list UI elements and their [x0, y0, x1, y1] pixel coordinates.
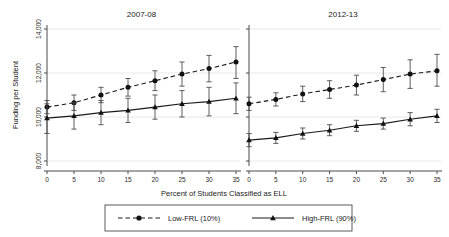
- panel-2: 051015202530352012-13: [246, 10, 442, 183]
- data-point-circle: [180, 72, 185, 77]
- data-point-circle: [234, 60, 239, 65]
- data-point-circle: [354, 83, 359, 88]
- legend-marker-circle: [136, 215, 141, 220]
- panel-1: 8,00010,00012,00014,00005101520253035200…: [35, 10, 241, 183]
- y-axis-title: Funding per Student: [11, 60, 20, 129]
- panel-title-2: 2012-13: [328, 10, 358, 19]
- x-tick-label-25: 25: [380, 176, 388, 183]
- data-point-circle: [273, 97, 278, 102]
- data-point-circle: [435, 68, 440, 73]
- x-tick-label-35: 35: [232, 176, 240, 183]
- series-high-frl: [246, 109, 440, 146]
- y-tick-label-14000: 14,000: [35, 19, 42, 39]
- x-tick-label-10: 10: [299, 176, 307, 183]
- data-point-circle: [153, 78, 158, 83]
- x-tick-label-10: 10: [97, 176, 105, 183]
- x-tick-label-35: 35: [433, 176, 441, 183]
- x-axis-title: Percent of Students Classified as ELL: [161, 189, 287, 198]
- x-tick-label-20: 20: [151, 176, 159, 183]
- y-tick-label-8000: 8,000: [35, 152, 42, 169]
- x-tick-label-30: 30: [205, 176, 213, 183]
- series-high-frl: [44, 83, 239, 134]
- data-point-circle: [247, 101, 252, 106]
- y-tick-label-10000: 10,000: [35, 107, 42, 127]
- legend-label-high-frl: High-FRL (90%): [302, 214, 356, 223]
- x-tick-label-5: 5: [72, 176, 76, 183]
- x-tick-label-15: 15: [124, 176, 132, 183]
- series-low-frl: [246, 54, 439, 110]
- data-point-circle: [207, 66, 212, 71]
- x-tick-label-30: 30: [407, 176, 415, 183]
- data-point-circle: [408, 72, 413, 77]
- x-tick-label-20: 20: [353, 176, 361, 183]
- data-point-circle: [126, 85, 131, 90]
- x-tick-label-15: 15: [326, 176, 334, 183]
- legend-label-low-frl: Low-FRL (10%): [168, 214, 221, 223]
- y-tick-label-12000: 12,000: [35, 63, 42, 83]
- data-point-circle: [300, 91, 305, 96]
- x-tick-label-25: 25: [178, 176, 186, 183]
- data-point-circle: [381, 77, 386, 82]
- chart-legend: Low-FRL (10%)High-FRL (90%): [105, 205, 356, 231]
- x-tick-label-0: 0: [45, 176, 49, 183]
- axis-titles: Funding per StudentPercent of Students C…: [11, 60, 287, 198]
- panel-title-1: 2007-08: [127, 10, 157, 19]
- data-point-circle: [99, 93, 104, 98]
- data-point-circle: [327, 87, 332, 92]
- chart-figure: 8,00010,00012,00014,00005101520253035200…: [0, 0, 449, 237]
- x-tick-label-5: 5: [274, 176, 278, 183]
- x-tick-label-0: 0: [247, 176, 251, 183]
- funding-per-ell-chart: 8,00010,00012,00014,00005101520253035200…: [0, 0, 449, 237]
